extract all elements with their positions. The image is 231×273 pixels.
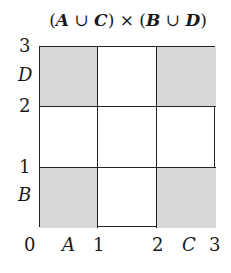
y-tick-3: 3 [19, 37, 30, 55]
y-set-label-d: D [18, 66, 32, 84]
y-tick-2: 2 [19, 97, 30, 115]
x-set-label-a: A [62, 236, 75, 254]
x-tick-0: 0 [24, 236, 35, 254]
cell-r0-c0 [40, 47, 98, 107]
title-set-d: D [185, 10, 200, 30]
title-paren: ( [49, 10, 56, 30]
cell-r2-c1 [98, 168, 157, 228]
title-set-a: A [56, 10, 69, 30]
diagram-title: (A ∪ C) × (B ∪ D) [40, 10, 216, 30]
cell-r2-c0 [40, 168, 98, 228]
product-grid [39, 46, 215, 227]
title-set-c: C [94, 10, 108, 30]
title-paren: ( [139, 10, 146, 30]
title-union: ∪ [69, 10, 94, 30]
cell-r1-c0 [40, 107, 98, 168]
cell-r1-c2 [157, 107, 216, 168]
y-set-label-b: B [18, 186, 31, 204]
title-union: ∪ [160, 10, 185, 30]
title-paren: ) [200, 10, 207, 30]
x-tick-3: 3 [209, 236, 220, 254]
cell-r0-c1 [98, 47, 157, 107]
cell-r0-c2 [157, 47, 216, 107]
y-tick-1: 1 [19, 158, 30, 176]
cell-r1-c1 [98, 107, 157, 168]
title-times: × [114, 10, 139, 30]
cell-r2-c2 [157, 168, 216, 228]
x-tick-2: 2 [152, 236, 163, 254]
title-set-b: B [146, 10, 160, 30]
x-set-label-c: C [182, 236, 196, 254]
x-tick-1: 1 [93, 236, 104, 254]
